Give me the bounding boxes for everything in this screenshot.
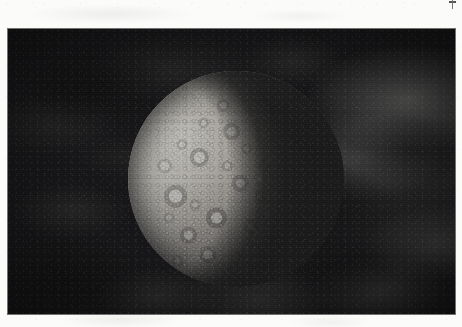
photo-alt-text: Black-and-white photograph of a heavily … bbox=[0, 0, 1, 1]
planetary-disc bbox=[128, 71, 344, 287]
planet-photograph bbox=[8, 29, 455, 314]
stray-ink-mark-stem bbox=[452, 0, 453, 9]
limb-darkening bbox=[128, 71, 344, 287]
planet-container bbox=[128, 71, 344, 287]
scanned-page: Black-and-white photograph of a heavily … bbox=[0, 0, 462, 327]
stray-ink-mark-icon bbox=[449, 0, 456, 12]
